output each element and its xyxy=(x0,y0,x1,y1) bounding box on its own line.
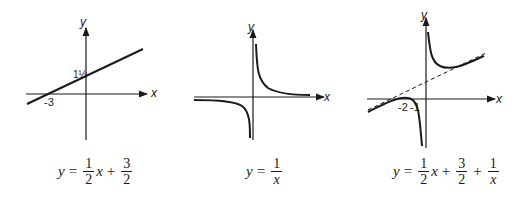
eq-lhs: y xyxy=(246,163,253,180)
graph3-x-label: x xyxy=(496,92,502,106)
equation-sum: y = 12 x + 32 + 1x xyxy=(393,156,501,187)
graph-reciprocal xyxy=(194,30,324,140)
eq-sign: = xyxy=(69,163,77,180)
graph-linear xyxy=(26,28,147,140)
equation-linear: y = 12 x + 32 xyxy=(58,156,134,187)
curve-right-branch xyxy=(428,32,484,68)
graph3-y-label: y xyxy=(421,8,427,22)
graph3-tick-neg1: -1 xyxy=(410,101,420,113)
graph1-x-intercept: -3 xyxy=(44,96,54,108)
graph2-x-label: x xyxy=(324,90,330,104)
graph3-tick-neg2: -2 xyxy=(398,101,408,113)
graph1-x-label: x xyxy=(151,86,157,100)
hyperbola-upper-branch xyxy=(256,44,310,95)
eq-lhs: y xyxy=(393,163,400,180)
equation-reciprocal: y = 1x xyxy=(246,156,284,187)
graph1-y-intercept: 1½ xyxy=(73,69,87,80)
eq-var-x: x xyxy=(96,163,103,180)
fraction-three-halves: 32 xyxy=(121,156,132,187)
graph1-y-label: y xyxy=(80,15,86,29)
plus-sign: + xyxy=(473,163,481,180)
plus-sign: + xyxy=(442,163,450,180)
graph2-y-label: y xyxy=(248,20,254,34)
fraction-one-over-x: 1x xyxy=(271,156,282,187)
plus-sign: + xyxy=(107,163,115,180)
asymptote-dashed xyxy=(368,53,486,110)
hyperbola-lower-branch xyxy=(194,100,250,138)
fraction-one-over-x: 1x xyxy=(488,156,499,187)
eq-sign: = xyxy=(404,163,412,180)
eq-var-x: x xyxy=(431,163,438,180)
graph-sum xyxy=(367,18,495,148)
fraction-three-halves: 32 xyxy=(456,156,467,187)
fraction-half: 12 xyxy=(83,156,94,187)
eq-lhs: y xyxy=(58,163,65,180)
fraction-half: 12 xyxy=(418,156,429,187)
eq-sign: = xyxy=(257,163,265,180)
